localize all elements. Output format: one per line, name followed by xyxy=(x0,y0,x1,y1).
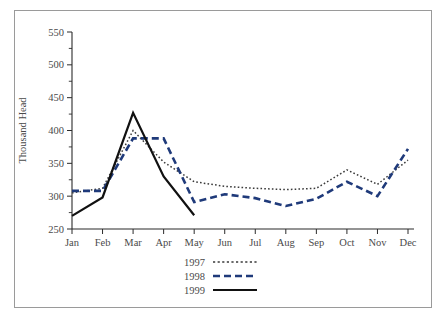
y-tick-label: 450 xyxy=(48,92,64,103)
y-tick-label: 250 xyxy=(48,224,64,235)
x-tick-label: Feb xyxy=(95,237,111,248)
line-chart: 250300350400450500550 JanFebMarAprMayJun… xyxy=(0,0,447,320)
y-axis: 250300350400450500550 xyxy=(48,27,72,235)
x-tick-label: Aug xyxy=(277,237,296,248)
y-axis-title: Thousand Head xyxy=(17,97,28,164)
x-tick-label: Mar xyxy=(124,237,142,248)
x-tick-label: May xyxy=(185,237,205,248)
legend-label-1999: 1999 xyxy=(184,285,205,296)
y-tick-label: 350 xyxy=(48,158,64,169)
series-line-1998 xyxy=(72,138,408,206)
y-tick-label: 550 xyxy=(48,27,64,38)
chart-legend: 199719981999 xyxy=(184,257,257,296)
y-axis-title-text: Thousand Head xyxy=(17,97,28,164)
y-tick-label: 400 xyxy=(48,125,64,136)
legend-label-1997: 1997 xyxy=(184,257,205,268)
x-tick-label: Oct xyxy=(339,237,354,248)
x-tick-label: Nov xyxy=(368,237,387,248)
y-tick-label: 500 xyxy=(48,59,64,70)
x-tick-label: Sep xyxy=(308,237,324,248)
y-tick-label: 300 xyxy=(48,191,64,202)
x-tick-label: Jul xyxy=(249,237,261,248)
x-tick-label: Jan xyxy=(65,237,80,248)
legend-label-1998: 1998 xyxy=(184,271,205,282)
x-tick-label: Jun xyxy=(217,237,232,248)
x-tick-label: Dec xyxy=(400,237,417,248)
x-tick-label: Apr xyxy=(155,237,172,248)
series-layer xyxy=(72,113,408,216)
x-axis: JanFebMarAprMayJunJulAugSepOctNovDec xyxy=(65,229,417,248)
series-line-1999 xyxy=(72,113,194,216)
chart-figure: 250300350400450500550 JanFebMarAprMayJun… xyxy=(0,0,447,320)
